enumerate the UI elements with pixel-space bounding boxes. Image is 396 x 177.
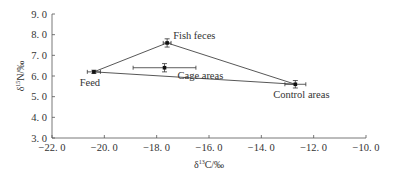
y-tick-label: 4. 0 bbox=[31, 112, 47, 123]
isotope-scatter-chart: −22. 0−20. 0−18. 0−16. 0−14. 0−12. 0−10.… bbox=[0, 0, 396, 177]
y-tick-label: 6. 0 bbox=[31, 71, 47, 82]
y-tick-label: 9. 0 bbox=[31, 9, 47, 20]
y-tick-label: 5. 0 bbox=[31, 91, 47, 102]
x-tick-label: −20. 0 bbox=[91, 142, 118, 153]
y-axis-label: δ15N/‰ bbox=[15, 61, 26, 92]
point-marker bbox=[163, 66, 167, 70]
data-point-feed: Feed bbox=[80, 70, 101, 88]
data-point-cage-areas: Cage areas bbox=[133, 64, 223, 81]
point-label: Fish feces bbox=[173, 30, 215, 41]
point-marker bbox=[92, 70, 96, 74]
x-tick-label: −12. 0 bbox=[300, 142, 327, 153]
point-marker bbox=[165, 41, 169, 45]
x-axis-label: δ13C/‰ bbox=[194, 159, 224, 170]
y-tick-label: 3. 0 bbox=[31, 133, 47, 144]
x-tick-label: −22. 0 bbox=[39, 142, 66, 153]
point-label: Control areas bbox=[273, 89, 329, 100]
y-tick-label: 8. 0 bbox=[31, 29, 47, 40]
point-marker bbox=[294, 82, 298, 86]
data-points: FeedFish fecesCage areasControl areas bbox=[80, 30, 330, 100]
x-tick-label: −18. 0 bbox=[143, 142, 170, 153]
point-label: Cage areas bbox=[178, 70, 224, 81]
point-label: Feed bbox=[80, 77, 101, 88]
x-tick-label: −10. 0 bbox=[353, 142, 380, 153]
y-tick-label: 7. 0 bbox=[31, 50, 47, 61]
x-tick-label: −16. 0 bbox=[196, 142, 223, 153]
data-point-fish-feces: Fish feces bbox=[163, 30, 215, 47]
x-tick-label: −14. 0 bbox=[248, 142, 275, 153]
